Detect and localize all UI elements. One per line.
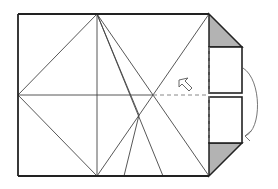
bottom-tab xyxy=(209,97,242,143)
top-tab xyxy=(209,47,242,93)
hollow-arrow-icon xyxy=(179,78,192,91)
bottom-shaded-triangle xyxy=(209,143,242,176)
curved-arrow-icon xyxy=(243,68,258,136)
top-shaded-triangle xyxy=(209,14,242,47)
crease-lines xyxy=(18,14,209,176)
dashed-fold-lines xyxy=(153,47,209,143)
origami-diagram xyxy=(0,0,278,189)
